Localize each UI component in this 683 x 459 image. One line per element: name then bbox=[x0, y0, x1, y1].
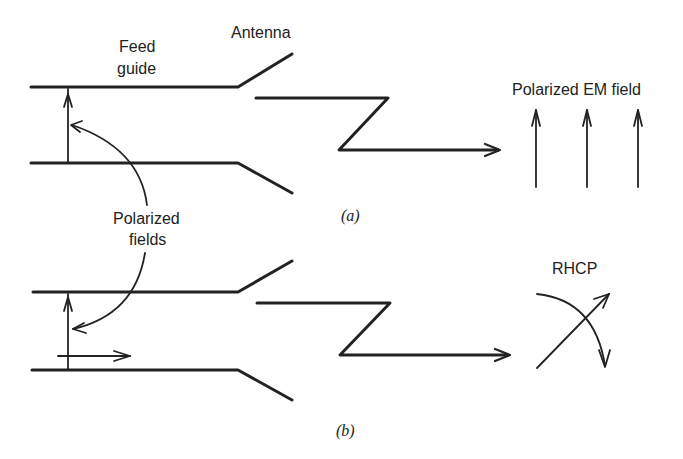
feed-guide-label-line2: guide bbox=[117, 60, 156, 77]
part-a: Antenna Feed guide Polarized EM field (a… bbox=[31, 24, 642, 225]
feed-guide-bottom-wall-b bbox=[32, 370, 292, 400]
em-field-arrow-3 bbox=[634, 110, 642, 187]
feed-antenna-diagram: Antenna Feed guide Polarized EM field (a… bbox=[0, 0, 683, 459]
caption-a: (a) bbox=[341, 207, 360, 225]
rhcp-label: RHCP bbox=[552, 260, 597, 277]
feed-guide-label-line1: Feed bbox=[119, 38, 155, 55]
part-b: RHCP (b) bbox=[32, 253, 610, 440]
em-field-label: Polarized EM field bbox=[512, 81, 641, 98]
feed-guide-bottom-wall-a bbox=[31, 163, 292, 193]
propagation-arrow-a bbox=[256, 98, 500, 156]
polarized-fields-label-line1: Polarized bbox=[113, 210, 180, 227]
propagation-arrow-b bbox=[257, 303, 510, 361]
feed-guide-top-wall-b bbox=[33, 261, 292, 292]
em-field-arrows bbox=[532, 110, 642, 187]
vertical-field-arrow-a bbox=[64, 89, 72, 163]
antenna-label: Antenna bbox=[231, 24, 291, 41]
caption-b: (b) bbox=[336, 422, 355, 440]
rotation-arc bbox=[537, 294, 605, 366]
diagonal-field-line bbox=[537, 294, 609, 368]
em-field-arrow-2 bbox=[583, 110, 591, 187]
em-field-arrow-1 bbox=[532, 110, 540, 187]
polarized-fields-label-line2: fields bbox=[129, 231, 166, 248]
feed-guide-top-wall-a bbox=[31, 54, 292, 87]
rhcp-symbol bbox=[537, 294, 610, 368]
vertical-field-arrow-b bbox=[64, 294, 72, 370]
